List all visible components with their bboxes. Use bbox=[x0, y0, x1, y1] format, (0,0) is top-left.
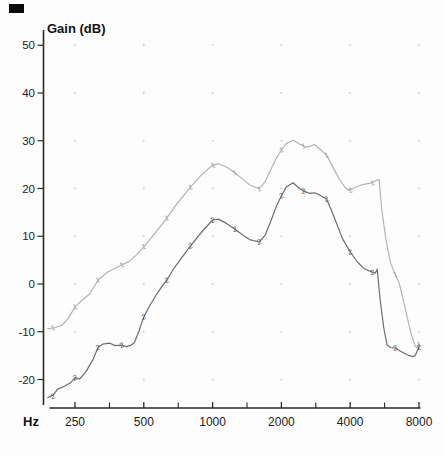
grid-dot bbox=[212, 188, 214, 190]
grid-dot bbox=[143, 331, 145, 333]
gain-curve-2-line bbox=[48, 183, 419, 398]
y-tick-label: 20 bbox=[22, 183, 35, 195]
grid-dot bbox=[74, 140, 76, 142]
gain-curve-1-marker: 1 bbox=[231, 168, 238, 178]
grid-dot bbox=[349, 283, 351, 285]
grid-dot bbox=[349, 235, 351, 237]
x-tick-label: 4000 bbox=[337, 415, 364, 429]
grid-dot bbox=[212, 140, 214, 142]
grid-dot bbox=[418, 283, 420, 285]
grid-dot bbox=[143, 235, 145, 237]
x-tick-label: 500 bbox=[134, 415, 154, 429]
grid-dot bbox=[418, 44, 420, 46]
gain-curve-1-marker: 1 bbox=[392, 270, 399, 280]
grid-dot bbox=[74, 188, 76, 190]
grid-dot bbox=[74, 283, 76, 285]
grid-dot bbox=[212, 44, 214, 46]
grid-dot bbox=[418, 379, 420, 381]
gain-curve-1-marker: 1 bbox=[118, 260, 125, 270]
y-tick-label: -20 bbox=[18, 374, 35, 386]
x-tick-label: 1000 bbox=[199, 415, 226, 429]
gain-curve-2-marker: 2 bbox=[369, 267, 376, 277]
grid-dot bbox=[349, 379, 351, 381]
grid-dot bbox=[281, 188, 283, 190]
x-tick-label: 2000 bbox=[268, 415, 295, 429]
gain-frequency-plot: 50403020100-10-2025050010002000400080001… bbox=[0, 0, 444, 457]
grid-dot bbox=[418, 235, 420, 237]
grid-dot bbox=[281, 92, 283, 94]
grid-dot bbox=[349, 140, 351, 142]
grid-dot bbox=[143, 92, 145, 94]
grid-dot bbox=[281, 283, 283, 285]
gain-curve-1-marker: 1 bbox=[209, 160, 216, 170]
y-tick-label: 40 bbox=[22, 87, 35, 99]
grid-dot bbox=[281, 331, 283, 333]
gain-curve-1-marker: 1 bbox=[323, 150, 330, 160]
gain-curve-2-marker: 2 bbox=[300, 186, 307, 196]
gain-curve-2-marker: 2 bbox=[323, 194, 330, 204]
grid-dot bbox=[143, 379, 145, 381]
grid-dot bbox=[281, 379, 283, 381]
gain-curve-2-marker: 2 bbox=[231, 224, 238, 234]
grid-dot bbox=[349, 331, 351, 333]
grid-dot bbox=[281, 140, 283, 142]
x-tick-label: 8000 bbox=[406, 415, 433, 429]
grid-dot bbox=[212, 283, 214, 285]
gain-curve-1-marker: 1 bbox=[347, 186, 354, 196]
grid-dot bbox=[74, 331, 76, 333]
gain-curve-1-marker: 1 bbox=[369, 178, 376, 188]
grid-dot bbox=[143, 140, 145, 142]
grid-dot bbox=[418, 140, 420, 142]
grid-dot bbox=[212, 235, 214, 237]
grid-dot bbox=[74, 235, 76, 237]
grid-dot bbox=[418, 92, 420, 94]
y-tick-label: 10 bbox=[22, 230, 35, 242]
gain-curve-2-marker: 2 bbox=[347, 247, 354, 257]
y-tick-label: 0 bbox=[29, 278, 35, 290]
grid-dot bbox=[74, 92, 76, 94]
grid-dot bbox=[143, 188, 145, 190]
grid-dot bbox=[349, 44, 351, 46]
y-tick-label: 30 bbox=[22, 135, 35, 147]
x-tick-label: 250 bbox=[65, 415, 85, 429]
grid-dot bbox=[74, 44, 76, 46]
grid-dot bbox=[281, 235, 283, 237]
grid-dot bbox=[418, 331, 420, 333]
grid-dot bbox=[212, 379, 214, 381]
grid-dot bbox=[418, 188, 420, 190]
grid-dot bbox=[212, 331, 214, 333]
gain-curve-2-marker: 2 bbox=[392, 343, 399, 353]
grid-dot bbox=[349, 92, 351, 94]
y-tick-label: 50 bbox=[22, 39, 35, 51]
grid-dot bbox=[212, 92, 214, 94]
gain-curve-2-marker: 2 bbox=[95, 343, 102, 353]
grid-dot bbox=[281, 44, 283, 46]
y-tick-label: -10 bbox=[18, 326, 35, 338]
grid-dot bbox=[143, 283, 145, 285]
rem-gain-chart-screen: Gain (dB) Hz 50403020100-10-202505001000… bbox=[0, 0, 444, 457]
grid-dot bbox=[143, 44, 145, 46]
